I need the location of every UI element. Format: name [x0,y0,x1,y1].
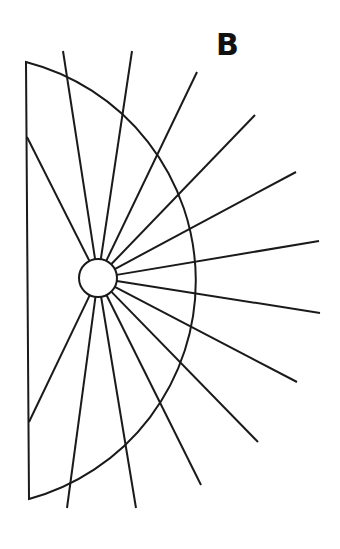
fan-diagram-svg [0,0,340,549]
spoke-lines [27,51,320,508]
spoke-line [111,292,258,442]
spoke-line [111,115,255,264]
spoke-line [67,297,95,508]
half-circle-spoke-diagram: B [0,0,340,549]
center-hub-circle [79,259,117,297]
figure-label: B [216,30,239,60]
spoke-line [117,241,319,275]
spoke-line [117,281,320,313]
spoke-line [101,51,132,259]
spoke-line [101,297,136,508]
